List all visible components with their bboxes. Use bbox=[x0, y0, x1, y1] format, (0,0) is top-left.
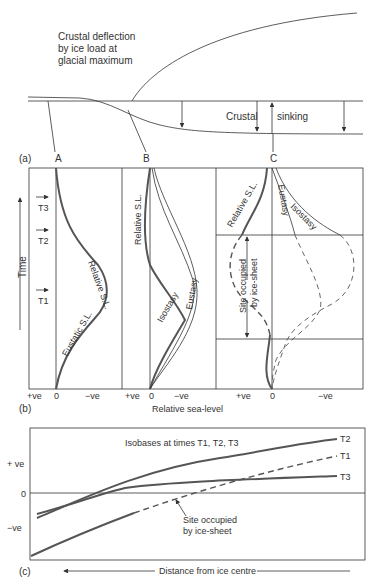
label-t1: T1 bbox=[340, 451, 351, 461]
curve-b-relative-sl bbox=[145, 168, 185, 389]
crustal-label: Crustal bbox=[226, 111, 258, 122]
panel-a-title-1: Crustal deflection bbox=[58, 31, 135, 42]
panel-a-title-3: glacial maximum bbox=[58, 55, 132, 66]
label-c-eustasy: Eustasy bbox=[276, 184, 291, 218]
x-axis-title-c: Distance from ice centre bbox=[159, 566, 256, 576]
tick-c-neg: −ve bbox=[318, 391, 333, 401]
curve-c-isostasy-dashed bbox=[272, 235, 354, 389]
tick-b-zero: 0 bbox=[149, 391, 154, 401]
panel-a-title-2: by ice load at bbox=[58, 43, 117, 54]
ice-isostasy-figure: Crustal deflection by ice load at glacia… bbox=[0, 0, 385, 582]
label-t2: T2 bbox=[340, 434, 351, 444]
isobase-t1-solid bbox=[31, 513, 134, 556]
t3-label: T3 bbox=[38, 203, 49, 213]
site-label-2: by ice-sheet bbox=[183, 526, 232, 536]
time-axis-label: Time bbox=[17, 256, 28, 278]
tick-c-zero: 0 bbox=[270, 391, 275, 401]
site-a-label: A bbox=[55, 153, 62, 164]
panel-a-tag: (a) bbox=[19, 153, 31, 164]
label-c-site-1: Site occupied bbox=[238, 259, 248, 313]
label-c-relative-sl: Relative S.L. bbox=[225, 180, 259, 229]
label-t3: T3 bbox=[340, 472, 351, 482]
site-label-1: Site occupied bbox=[183, 515, 237, 525]
curve-c-eustasy-dashed bbox=[272, 235, 321, 389]
panel-a: Crustal deflection by ice load at glacia… bbox=[19, 13, 363, 164]
tick-c-pos: +ve bbox=[236, 391, 251, 401]
ice-sheet-profile bbox=[132, 13, 357, 101]
tick-a-neg: −ve bbox=[85, 391, 100, 401]
y-tick-pos: + ve bbox=[7, 459, 24, 469]
tick-b-pos: +ve bbox=[125, 391, 140, 401]
sinking-label: sinking bbox=[277, 111, 308, 122]
label-c-site-2: by ice-sheet bbox=[249, 258, 259, 307]
curve-b-isostasy bbox=[150, 168, 194, 389]
panel-b-tag: (b) bbox=[19, 403, 31, 414]
y-tick-neg: −ve bbox=[7, 523, 22, 533]
curve-c-relative-sl-lower bbox=[266, 335, 272, 389]
panel-c-tag: (c) bbox=[19, 566, 31, 577]
y-tick-zero: 0 bbox=[21, 489, 26, 499]
panel-b: Time T3 T2 T1 Relative S.L. Eustatic S.L… bbox=[17, 168, 363, 414]
tick-b-neg: −ve bbox=[174, 391, 189, 401]
site-b-label: B bbox=[143, 153, 150, 164]
tick-a-pos: +ve bbox=[27, 391, 42, 401]
pointer-a bbox=[48, 101, 55, 152]
site-pointer bbox=[176, 500, 186, 516]
t1-label: T1 bbox=[38, 296, 49, 306]
panel-c-title: Isobases at times T1, T2, T3 bbox=[125, 438, 239, 448]
x-axis-title-b: Relative sea-level bbox=[152, 404, 223, 414]
site-c-label: C bbox=[270, 153, 277, 164]
label-b-relative-sl: Relative S.L. bbox=[133, 194, 143, 245]
deflected-crust-line bbox=[28, 97, 363, 134]
label-a-eustatic-sl: Eustatic S.L. bbox=[60, 309, 94, 358]
t2-label: T2 bbox=[38, 236, 49, 246]
pointer-b bbox=[128, 110, 146, 152]
tick-a-zero: 0 bbox=[54, 391, 59, 401]
panel-c: + ve 0 −ve Isobases at times T1, T2, T3 … bbox=[7, 428, 365, 577]
